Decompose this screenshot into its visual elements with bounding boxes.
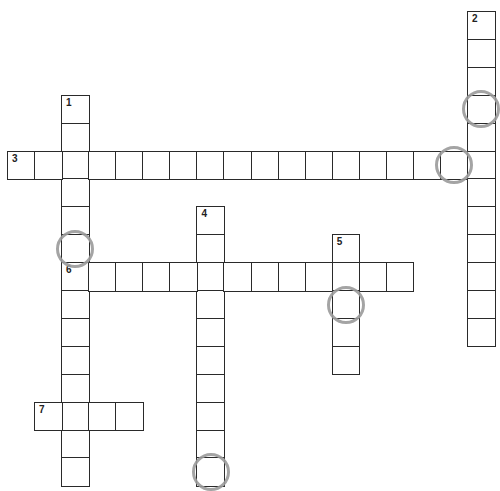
crossword-cell[interactable]: 3 [7,151,36,181]
crossword-cell[interactable] [278,262,307,292]
crossword-cell[interactable] [467,95,496,125]
crossword-cell[interactable] [332,151,361,181]
crossword-cell[interactable] [61,151,90,181]
crossword-cell[interactable] [386,262,415,292]
crossword-cell[interactable]: 1 [61,95,90,125]
clue-number: 3 [12,154,18,164]
crossword-cell[interactable] [61,206,90,236]
crossword-cell[interactable] [359,262,388,292]
crossword-cell[interactable] [142,262,171,292]
crossword-cell[interactable] [251,262,280,292]
crossword-cell[interactable] [88,262,117,292]
crossword-cell[interactable] [61,123,90,153]
crossword-cell[interactable] [115,402,144,432]
crossword-cell[interactable] [467,318,496,348]
crossword-cell[interactable] [61,290,90,320]
crossword-cell[interactable] [196,402,225,432]
crossword-cell[interactable] [115,151,144,181]
crossword-cell[interactable] [196,151,225,181]
clue-number: 5 [337,237,343,247]
crossword-cell[interactable] [61,318,90,348]
crossword-cell[interactable] [61,374,90,404]
crossword-cell[interactable] [467,262,496,292]
crossword-cell[interactable] [196,318,225,348]
crossword-cell[interactable] [196,457,225,487]
crossword-cell[interactable] [467,290,496,320]
crossword-cell[interactable] [169,262,198,292]
crossword-cell[interactable] [223,262,252,292]
crossword-cell[interactable] [251,151,280,181]
crossword-cell[interactable] [332,346,361,376]
clue-number: 4 [201,209,207,219]
crossword-cell[interactable] [467,67,496,97]
crossword-cell[interactable] [196,374,225,404]
crossword-cell[interactable] [467,206,496,236]
clue-number: 7 [39,405,45,415]
crossword-cell[interactable] [413,151,442,181]
crossword-cell[interactable] [223,151,252,181]
crossword-cell[interactable] [61,178,90,208]
crossword-cell[interactable]: 5 [332,234,361,264]
crossword-cell[interactable] [386,151,415,181]
crossword-cell[interactable] [61,402,90,432]
crossword-cell[interactable] [440,151,469,181]
crossword-cell[interactable] [467,178,496,208]
crossword-cell[interactable] [278,151,307,181]
crossword-cell[interactable] [467,151,496,181]
clue-number: 6 [66,265,72,275]
crossword-cell[interactable] [332,262,361,292]
crossword-cell[interactable] [196,346,225,376]
crossword-cell[interactable] [169,151,198,181]
crossword-cell[interactable] [196,234,225,264]
crossword-cell[interactable] [34,151,63,181]
crossword-cell[interactable] [467,123,496,153]
crossword-cell[interactable] [61,457,90,487]
clue-number: 1 [66,98,72,108]
crossword-cell[interactable] [467,234,496,264]
crossword-cell[interactable] [305,262,334,292]
crossword-cell[interactable] [196,430,225,460]
crossword-cell[interactable] [196,290,225,320]
crossword-cell[interactable]: 7 [34,402,63,432]
crossword-cell[interactable] [88,402,117,432]
crossword-cell[interactable]: 2 [467,11,496,41]
crossword-cell[interactable] [61,346,90,376]
crossword-cell[interactable] [61,234,90,264]
crossword-cell[interactable] [142,151,171,181]
crossword-cell[interactable]: 4 [196,206,225,236]
crossword-cell[interactable] [359,151,388,181]
crossword-cell[interactable] [61,430,90,460]
crossword-cell[interactable] [467,39,496,69]
crossword-cell[interactable]: 6 [61,262,90,292]
crossword-cell[interactable] [332,318,361,348]
crossword-cell[interactable] [305,151,334,181]
crossword-cell[interactable] [115,262,144,292]
clue-number: 2 [472,14,478,24]
crossword-cell[interactable] [88,151,117,181]
crossword-cell[interactable] [332,290,361,320]
crossword-cell[interactable] [196,262,225,292]
